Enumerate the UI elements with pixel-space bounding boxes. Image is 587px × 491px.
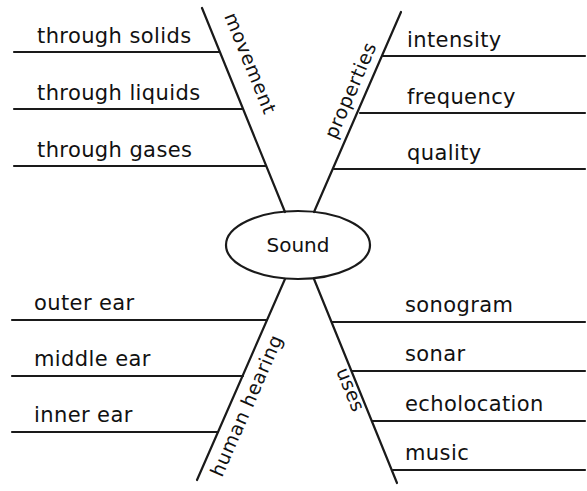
center-label: Sound <box>267 233 330 257</box>
detail-label: middle ear <box>34 347 151 371</box>
detail-label: music <box>405 441 469 465</box>
spine-label-properties: properties <box>319 38 380 141</box>
branch-movement: movement through solids through liquids … <box>14 8 285 212</box>
detail-label: echolocation <box>405 392 544 416</box>
spine-label-movement: movement <box>220 9 281 117</box>
branch-properties: properties intensity frequency quality <box>314 12 585 212</box>
detail-label: intensity <box>407 28 502 52</box>
branch-human-hearing: human hearing outer ear middle ear inner… <box>12 279 287 480</box>
spider-map-diagram: Sound movement through solids through li… <box>0 0 587 491</box>
detail-label: through liquids <box>37 81 201 105</box>
spine-label-human-hearing: human hearing <box>206 331 287 480</box>
center-node: Sound <box>226 211 370 279</box>
detail-label: sonogram <box>405 293 513 317</box>
detail-label: through gases <box>37 138 192 162</box>
detail-label: quality <box>407 141 482 165</box>
detail-label: frequency <box>407 85 516 109</box>
spine-human-hearing <box>197 279 285 480</box>
detail-label: sonar <box>405 342 466 366</box>
detail-label: through solids <box>37 24 192 48</box>
detail-label: inner ear <box>34 403 133 427</box>
detail-label: outer ear <box>34 291 135 315</box>
branch-uses: uses sonogram sonar echolocation music <box>314 279 585 483</box>
